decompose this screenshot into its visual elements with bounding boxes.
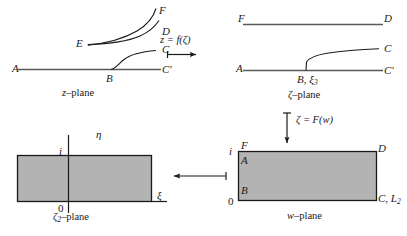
z-plane-graphic — [18, 9, 161, 70]
z-plane-curve-bc — [111, 51, 156, 70]
zeta-plane-graphic — [243, 25, 383, 71]
zeta-plane-label-B-subscript: 3 — [314, 78, 318, 87]
zeta-plane-caption: ζ–plane — [288, 90, 320, 101]
zeta-plane-label-B-text: B, ξ — [297, 73, 314, 85]
top-map-label: z = f(ζ) — [160, 35, 191, 46]
zeta2-plane-eta-axis-label: η — [96, 129, 101, 140]
figure-canvas: A B C C′ D E F z–plane z = f(ζ) A B, ξ3 … — [0, 0, 407, 236]
z-plane-label-B: B — [106, 73, 113, 84]
z-plane-label-E: E — [76, 38, 83, 49]
z-plane-caption: z–plane — [62, 88, 94, 99]
w-plane-axis-origin: 0 — [228, 196, 234, 207]
bottom-map-arrow — [174, 172, 226, 180]
w-plane-label-D: D — [378, 143, 386, 154]
zeta-plane-caption-suffix: –plane — [292, 89, 320, 100]
zeta-plane-label-F: F — [238, 13, 245, 24]
zeta2-plane-axis-unit-i: i — [59, 146, 62, 157]
z-plane-curve-ef — [88, 9, 156, 46]
w-plane-label-B: B — [241, 185, 248, 196]
w-plane-axis-unit-i: i — [229, 146, 232, 157]
zeta-plane-label-D: D — [384, 13, 392, 24]
z-plane-caption-suffix: –plane — [66, 87, 94, 98]
vertical-map-arrow — [283, 113, 291, 143]
zeta2-plane-rectangle — [18, 156, 152, 202]
zeta2-plane-caption: ζ2–plane — [53, 212, 89, 224]
zeta-plane-label-B: B, ξ3 — [297, 74, 318, 87]
zeta-plane-curve-bc — [306, 49, 379, 71]
w-plane-rectangle — [239, 152, 377, 201]
w-plane-caption-suffix: –plane — [294, 210, 322, 221]
w-plane-label-C-text: C, L — [378, 192, 397, 204]
z-plane-label-C-prime: C′ — [162, 64, 172, 75]
z-plane-label-A: A — [12, 63, 19, 74]
z-plane-curve-ed — [88, 21, 159, 45]
vertical-map-label: ζ = F(w) — [296, 115, 333, 126]
z-plane-label-C: C — [162, 44, 169, 55]
z-plane-label-F: F — [159, 5, 166, 16]
zeta2-plane-graphic — [18, 135, 168, 213]
w-plane-caption-symbol: w — [287, 210, 294, 221]
w-plane-label-C: C, L2 — [378, 193, 401, 206]
w-plane-graphic — [239, 152, 377, 201]
w-plane-caption: w–plane — [287, 211, 322, 222]
w-plane-label-A: A — [241, 155, 248, 166]
zeta2-plane-caption-suffix: –plane — [61, 211, 89, 222]
top-map-arrow — [168, 51, 197, 58]
w-plane-label-F: F — [241, 140, 248, 151]
zeta-plane-label-C-prime: C′ — [384, 65, 394, 76]
figure-vector-artwork — [0, 0, 407, 236]
zeta-plane-label-C: C — [384, 43, 391, 54]
zeta2-plane-xi-axis-label: ξ — [157, 190, 162, 201]
w-plane-label-C-subscript: 2 — [397, 197, 401, 206]
zeta-plane-label-A: A — [236, 63, 243, 74]
